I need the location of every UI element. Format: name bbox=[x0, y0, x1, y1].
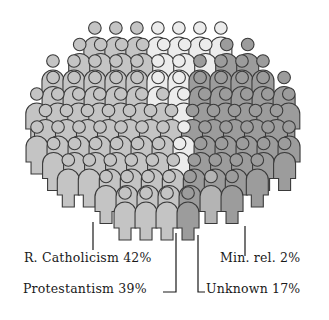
label-unknown: Unknown 17% bbox=[206, 281, 300, 296]
pictogram-chart bbox=[0, 0, 329, 320]
unknown-leader-line bbox=[198, 235, 205, 292]
label-minority-religions: Min. rel. 2% bbox=[220, 250, 300, 265]
label-catholicism: R. Catholicism 42% bbox=[24, 250, 152, 265]
label-protestantism: Protestantism 39% bbox=[23, 281, 147, 296]
protestant-leader-line bbox=[163, 233, 176, 292]
people-crowd bbox=[26, 22, 300, 240]
